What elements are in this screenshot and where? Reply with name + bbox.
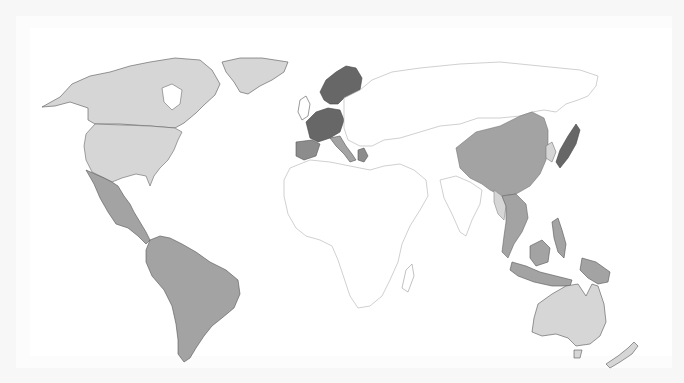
region-korea: [546, 142, 556, 162]
region-madagascar: [402, 264, 414, 292]
region-greenland: [222, 58, 288, 94]
region-greece: [358, 148, 368, 162]
region-philippines: [552, 218, 566, 258]
region-mainland-southeast-asia: [502, 194, 528, 258]
region-japan: [556, 124, 580, 168]
region-tasmania: [574, 350, 582, 358]
world-map: [0, 0, 684, 383]
region-australia: [532, 284, 606, 346]
region-mexico: [86, 170, 150, 244]
region-united-kingdom: [298, 96, 310, 120]
region-russia-eurasia: [344, 62, 598, 146]
region-new-zealand: [606, 342, 638, 368]
region-papua-new-guinea: [580, 258, 610, 284]
region-canada: [42, 58, 220, 128]
region-south-america: [146, 236, 240, 362]
region-iberia: [296, 140, 320, 160]
region-india: [440, 176, 482, 236]
